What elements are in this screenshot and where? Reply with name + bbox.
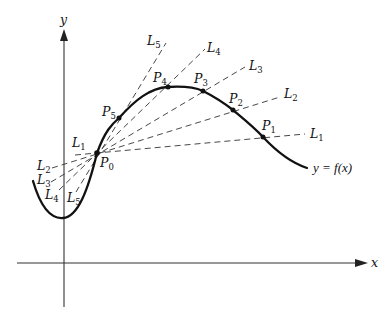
line-labels-left: L1 L2 L3 L4 L5 [36, 135, 86, 207]
label-l1-right: L1 [309, 126, 324, 143]
x-axis-label: x [371, 255, 378, 270]
point-p5 [117, 116, 122, 121]
label-p2: P2 [228, 91, 243, 108]
label-p5: P5 [101, 104, 116, 121]
point-p0 [94, 150, 100, 156]
point-p1 [261, 135, 266, 140]
secant-line-l2 [52, 97, 280, 168]
y-axis-label: y [59, 12, 68, 27]
secant-line-l4 [59, 49, 205, 190]
label-p3: P3 [193, 71, 208, 88]
y-axis-arrow-icon [60, 29, 68, 41]
point-p3 [201, 89, 206, 94]
point-labels: P0 P1 P2 P3 P4 P5 [99, 70, 276, 172]
secant-lines-diagram: y x P0 P1 P2 P3 P4 P5 L1 L2 L3 [0, 0, 392, 317]
label-p0: P0 [99, 155, 114, 172]
label-l4-left: L4 [44, 187, 59, 204]
label-l5-right: L5 [146, 33, 161, 50]
label-l4-right: L4 [206, 40, 221, 57]
x-axis-arrow-icon [355, 259, 368, 267]
label-p4: P4 [152, 70, 167, 87]
line-labels-right: L1 L2 L3 L4 L5 [146, 33, 324, 143]
label-p1: P1 [261, 118, 276, 135]
label-l1-left: L1 [71, 135, 86, 152]
label-l3-right: L3 [248, 58, 263, 75]
point-p2 [231, 108, 236, 113]
label-l5-left: L5 [66, 190, 81, 207]
curve-label: y = f(x) [311, 160, 352, 175]
secant-line-l3 [51, 67, 245, 182]
label-l2-right: L2 [283, 86, 298, 103]
